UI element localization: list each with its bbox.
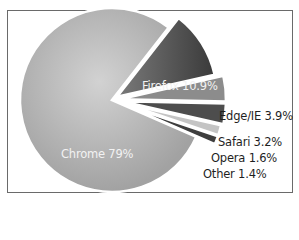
slice-label-other: Other 1.4% <box>203 167 267 181</box>
slice-label-edge: Edge/IE 3.9% <box>219 109 293 123</box>
slice-label-safari: Safari 3.2% <box>218 135 282 149</box>
slice-label-opera: Opera 1.6% <box>211 151 277 165</box>
slice-label-firefox: Firefox 10.9% <box>142 79 218 93</box>
slice-label-chrome: Chrome 79% <box>61 147 133 161</box>
